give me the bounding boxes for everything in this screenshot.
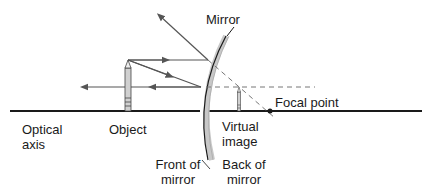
virtual-image-line1: Virtual [222,119,259,134]
object-label: Object [109,122,147,137]
virtual-image-line2: image [222,134,259,149]
back-line1: Back of [219,157,269,172]
virtual-image-pencil [238,87,241,111]
optical-axis-label: Optical axis [22,122,62,152]
mirror-leader-line [227,27,234,36]
focal-point-label: Focal point [275,95,339,110]
object-pencil [125,60,131,111]
mirror-label: Mirror [206,12,240,27]
optical-axis-line2: axis [22,137,62,152]
focal-point-dot [268,109,273,114]
optical-axis-line1: Optical [22,122,62,137]
front-line2: mirror [153,172,203,187]
back-line2: mirror [219,172,269,187]
virtual-image-label: Virtual image [222,119,259,149]
front-line1: Front of [153,157,203,172]
rays [84,16,208,87]
front-of-mirror-label: Front of mirror [153,157,203,187]
back-of-mirror-label: Back of mirror [219,157,269,187]
front-leader-line [202,160,210,169]
ray-diagram [0,0,432,196]
